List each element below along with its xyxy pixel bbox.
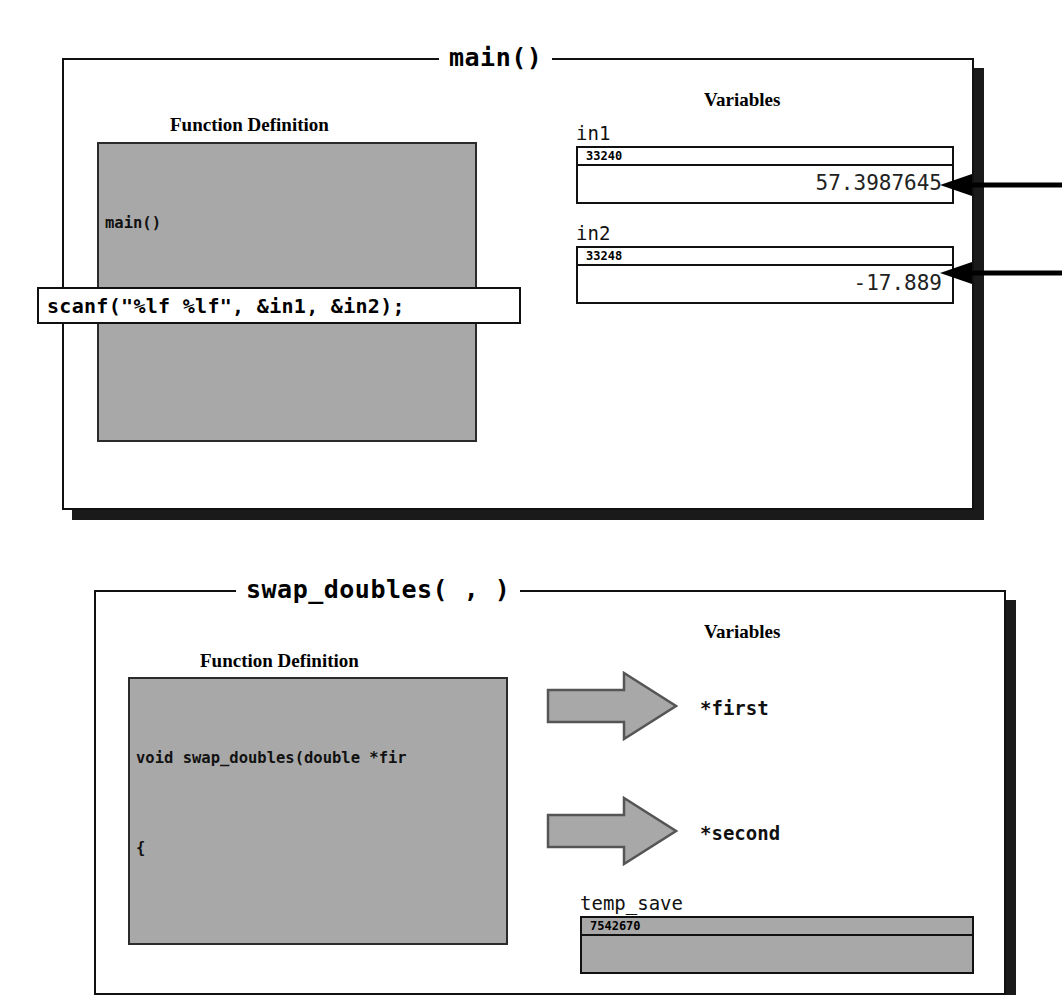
swap-function-definition-heading: Function Definition: [200, 650, 359, 672]
code-line: main(): [105, 208, 475, 238]
variable-address-in2: 33248: [578, 248, 952, 266]
code-line: [136, 923, 506, 945]
swap-code-box: void swap_doubles(double *fir { double t…: [128, 677, 508, 945]
main-function-definition-heading: Function Definition: [170, 114, 329, 136]
block-arrow-first-icon: [546, 670, 678, 742]
block-arrow-label-second: *second: [700, 822, 780, 844]
variable-box-temp-save: 7542670: [580, 916, 974, 974]
variable-box-in1: 33240 57.3987645: [576, 146, 954, 204]
scanf-callout-text: scanf("%lf %lf", &in1, &in2);: [47, 294, 405, 318]
variable-value-in1: 57.3987645: [578, 166, 952, 202]
swap-panel: swap_doubles( , ) Function Definition Va…: [94, 590, 1006, 995]
block-arrow-label-first: *first: [700, 697, 769, 719]
variable-address-temp-save: 7542670: [582, 918, 972, 936]
scanf-callout: scanf("%lf %lf", &in1, &in2);: [37, 287, 521, 324]
main-panel: main() Function Definition Variables mai…: [62, 58, 974, 510]
pointer-arrow-in1: [938, 172, 1062, 198]
block-arrow-second-icon: [546, 795, 678, 867]
variable-group-in2: in2 33248 -17.889: [576, 222, 954, 304]
pointer-arrow-in2: [938, 260, 1062, 286]
variable-group-in1: in1 33240 57.3987645: [576, 122, 954, 204]
main-panel-title: main(): [439, 43, 552, 73]
variable-name-temp-save: temp_save: [580, 892, 974, 914]
code-line: void swap_doubles(double *fir: [136, 743, 506, 773]
variable-address-in1: 33240: [578, 148, 952, 166]
swap-variables-heading: Variables: [704, 621, 780, 643]
variable-box-in2: 33248 -17.889: [576, 246, 954, 304]
variable-value-temp-save: [582, 936, 972, 972]
code-line: [105, 388, 475, 418]
variable-name-in1: in1: [576, 122, 954, 144]
variable-value-in2: -17.889: [578, 266, 952, 302]
main-variables-heading: Variables: [704, 89, 780, 111]
variable-group-temp-save: temp_save 7542670: [580, 892, 974, 974]
variable-name-in2: in2: [576, 222, 954, 244]
code-line: {: [136, 833, 506, 863]
swap-panel-title: swap_doubles( , ): [236, 575, 520, 605]
